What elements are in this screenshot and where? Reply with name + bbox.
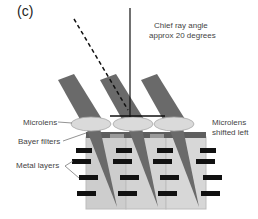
bayer-filters	[86, 132, 206, 138]
microlens-shifted-label-line2: shifted left	[212, 128, 248, 138]
microlens-label: Microlens	[23, 118, 57, 128]
panel-label: (c)	[17, 3, 33, 19]
metal-layers-label: Metal layers	[16, 161, 59, 171]
chief-ray-label-line1: Chief ray angle	[154, 21, 208, 31]
microlenses	[71, 117, 194, 131]
image-sensor-diagram	[0, 0, 258, 219]
microlens-shifted-label-line1: Microlens	[212, 118, 246, 128]
bayer-filters-label: Bayer filters	[18, 137, 60, 147]
chief-ray-label-line2: approx 20 degrees	[149, 31, 216, 41]
